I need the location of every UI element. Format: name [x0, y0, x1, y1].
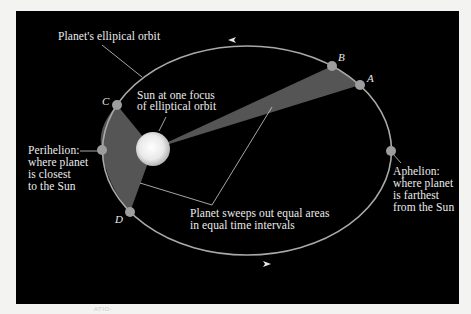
planet-point-b [327, 61, 337, 71]
point-label-d: D [115, 214, 123, 225]
aphelion-label-line1: Aphelion: [393, 166, 440, 178]
perihelion-label-line4: to the Sun [28, 181, 76, 193]
sweep-label-line1: Planet sweeps out equal areas [190, 208, 330, 220]
planet-point-c [112, 100, 122, 110]
aphelion-label-line3: is farthest [393, 190, 439, 202]
point-label-c: C [102, 96, 109, 107]
planet-point-a [355, 80, 365, 90]
planet-point-perihelion [97, 145, 107, 155]
aphelion-label-line2: where planet [393, 178, 453, 190]
perihelion-label-line2: where planet [28, 157, 88, 169]
aphelion-label-line4: from the Sun [393, 202, 454, 214]
orbit-label: Planet's ellipical orbit [58, 31, 160, 43]
point-label-b: B [338, 52, 345, 63]
planet-point-aphelion [386, 146, 396, 156]
bleed-through-text: ATIO- [94, 306, 112, 312]
point-label-a: A [367, 73, 374, 84]
perihelion-label-line3: is closest [28, 169, 71, 181]
sun-icon [136, 132, 170, 166]
kepler-diagram: Planet's ellipical orbit Sun at one focu… [0, 0, 471, 314]
sweep-label-line2: in equal time intervals [190, 220, 295, 232]
perihelion-label-line1: Perihelion: [28, 145, 80, 157]
sun-label-line2: of elliptical orbit [137, 101, 216, 113]
planet-point-d [125, 207, 135, 217]
